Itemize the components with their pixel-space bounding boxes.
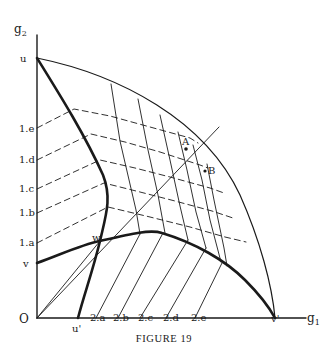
grid-line-6 bbox=[207, 164, 227, 266]
y-label-u: u bbox=[20, 53, 27, 64]
y-label-v: v bbox=[22, 258, 29, 269]
x-label-2d: 2.d bbox=[163, 312, 180, 323]
lower-line-2b bbox=[118, 233, 163, 318]
thick-curve-u-to-u-prime bbox=[37, 58, 108, 318]
y-label-1e: 1.e bbox=[19, 123, 35, 134]
x-label-v-prime: v' bbox=[270, 313, 279, 324]
point-A-label: A bbox=[181, 136, 190, 147]
x-label-2e: 2.e bbox=[191, 312, 207, 323]
point-B-marker bbox=[203, 169, 206, 172]
point-A-marker bbox=[184, 147, 188, 151]
lower-line-2e bbox=[195, 263, 222, 318]
lower-line-2c bbox=[140, 240, 188, 318]
g1-axis-label: g1 bbox=[307, 311, 320, 327]
y-label-1a: 1.a bbox=[19, 237, 35, 248]
y-label-1d: 1.d bbox=[19, 154, 36, 165]
x-label-2a: 2.a bbox=[90, 312, 106, 323]
point-B-label: B bbox=[208, 165, 215, 176]
point-w-label: w bbox=[92, 232, 101, 243]
g2-axis-label: g2 bbox=[14, 22, 27, 38]
diagonal-ray bbox=[37, 127, 219, 318]
figure-caption: FIGURE 19 bbox=[0, 333, 328, 344]
y-label-1c: 1.c bbox=[19, 183, 35, 194]
dashed-lines-group bbox=[37, 109, 246, 243]
x-label-2c: 2.c bbox=[138, 312, 154, 323]
figure-19-diagram: g2 g1 O u 1.e 1.d 1.c 1.b 1.a v u' 2.a 2… bbox=[0, 0, 328, 357]
x-label-2b: 2.b bbox=[113, 312, 129, 323]
origin-label: O bbox=[19, 312, 29, 326]
grid-line-1 bbox=[111, 84, 140, 234]
lower-line-2a bbox=[96, 234, 140, 318]
grid-line-5 bbox=[193, 145, 221, 262]
y-label-1b: 1.b bbox=[19, 207, 35, 218]
